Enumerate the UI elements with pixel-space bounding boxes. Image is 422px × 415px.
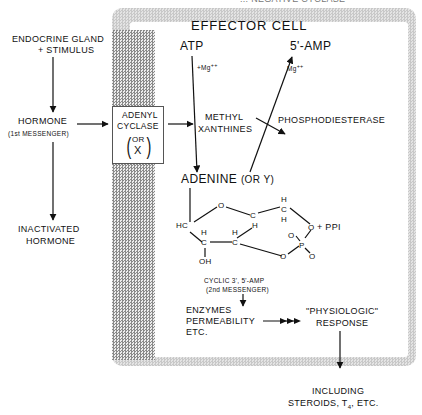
- diagram-connectors: [0, 0, 422, 415]
